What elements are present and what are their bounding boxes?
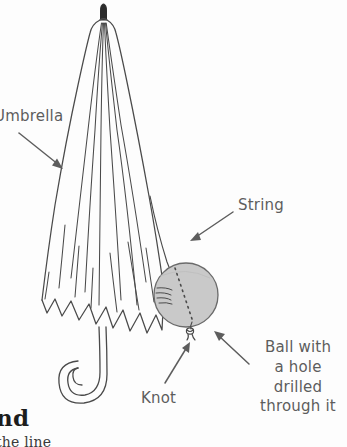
page-heading-fragment: nd (0, 404, 29, 431)
label-ball-line-2: a hole (251, 358, 345, 378)
label-knot: Knot (141, 390, 176, 408)
arrow-ball (214, 331, 249, 364)
label-string: String (238, 197, 284, 215)
leader-arrows (19, 133, 249, 383)
arrow-knot (165, 342, 190, 383)
umbrella-tip-ferrule (101, 4, 107, 20)
label-ball-line-1: Ball with (251, 338, 345, 358)
umbrella-canopy (42, 19, 164, 333)
figure-page: Umbrella String Knot Ball with a hole dr… (0, 0, 347, 447)
label-ball: Ball with a hole drilled through it (251, 338, 345, 417)
arrow-umbrella (19, 133, 63, 169)
hanging-string (150, 196, 171, 272)
label-ball-line-4: through it (251, 397, 345, 417)
umbrella-hook-handle (59, 327, 107, 403)
page-body-text-fragment: the line (0, 434, 116, 447)
wooden-ball (154, 263, 218, 327)
arrow-string (190, 212, 233, 241)
label-ball-line-3: drilled (251, 378, 345, 398)
label-umbrella: Umbrella (0, 108, 63, 126)
